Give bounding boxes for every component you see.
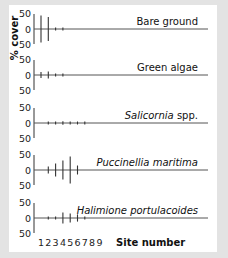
y-tick-label: 0	[25, 118, 31, 129]
y-tick-label: 50	[19, 39, 31, 50]
x-tick-label: 5	[67, 237, 73, 248]
y-tick-label: 50	[19, 54, 31, 65]
y-tick-label: 50	[19, 197, 31, 208]
y-tick-label: 50	[19, 85, 31, 96]
x-tick-label: 7	[82, 237, 88, 248]
y-tick-label: 50	[19, 102, 31, 113]
species-label: Puccinellia maritima	[96, 157, 198, 168]
y-tick-label: 50	[19, 180, 31, 191]
x-axis-title: Site number	[116, 237, 185, 248]
y-tick-label: 50	[19, 149, 31, 160]
species-label: Green algae	[137, 62, 198, 73]
x-tick-label: 1	[38, 237, 44, 248]
y-tick-label: 0	[25, 24, 31, 35]
kite-diagram: 50050Bare ground50050Green algae50050Sal…	[0, 0, 228, 258]
y-tick-label: 0	[25, 70, 31, 81]
y-tick-label: 50	[19, 133, 31, 144]
x-tick-label: 4	[60, 237, 66, 248]
x-tick-label: 2	[45, 237, 51, 248]
species-label: Bare ground	[136, 16, 198, 27]
x-tick-label: 9	[96, 237, 102, 248]
species-label: Halimione portulacoides	[77, 205, 198, 216]
y-axis-title: % cover	[9, 16, 20, 61]
x-tick-label: 6	[74, 237, 80, 248]
y-tick-label: 50	[19, 228, 31, 239]
y-tick-label: 50	[19, 8, 31, 19]
x-tick-label: 8	[89, 237, 95, 248]
x-tick-label: 3	[53, 237, 59, 248]
species-label: Salicornia spp.	[125, 110, 198, 121]
y-tick-label: 0	[25, 165, 31, 176]
y-tick-label: 0	[25, 213, 31, 224]
